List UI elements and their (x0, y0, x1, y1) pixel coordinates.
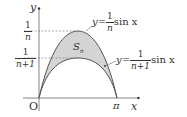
numerator: 1 (22, 48, 30, 57)
origin-label: O (29, 101, 38, 112)
denominator: n+1 (130, 62, 151, 71)
y-axis-label: y (30, 2, 36, 13)
func: sin x (151, 54, 175, 65)
denominator: n+1 (15, 60, 36, 69)
numerator: 1 (106, 12, 114, 21)
func: sin x (114, 16, 138, 27)
pi-label: π (113, 101, 120, 111)
eq-prefix: y= (116, 54, 130, 65)
leader-lower-dot (104, 65, 106, 67)
y-axis-arrow (38, 7, 40, 9)
x-axis-arrow (137, 97, 139, 99)
numerator: 1 (24, 21, 32, 30)
denominator: n (24, 33, 32, 42)
region-label-sn: Sn (73, 42, 84, 54)
x-axis-label: x (131, 101, 137, 112)
upper-curve-equation: y=1nsin x (92, 12, 137, 33)
denominator: n (106, 24, 114, 33)
region-main: S (73, 41, 80, 52)
lower-curve-equation: y=1n+1sin x (116, 50, 175, 71)
numerator: 1 (137, 50, 145, 59)
eq-prefix: y= (92, 16, 106, 27)
region-sub: n (80, 47, 84, 54)
y-tick-1-over-n-plus-1: 1n+1 (15, 48, 36, 69)
y-tick-1-over-n: 1n (24, 21, 32, 42)
